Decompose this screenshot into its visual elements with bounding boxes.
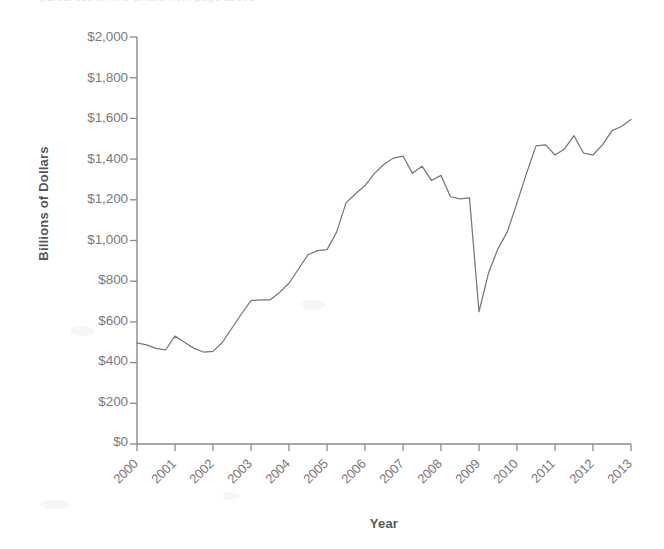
y-axis-ticks <box>130 37 137 444</box>
x-axis-ticks <box>137 444 631 451</box>
data-series-line <box>137 119 631 352</box>
axis-lines <box>137 37 631 444</box>
plot-area <box>0 0 664 549</box>
chart-figure: · · · partial cut-off line of text from … <box>0 0 664 549</box>
